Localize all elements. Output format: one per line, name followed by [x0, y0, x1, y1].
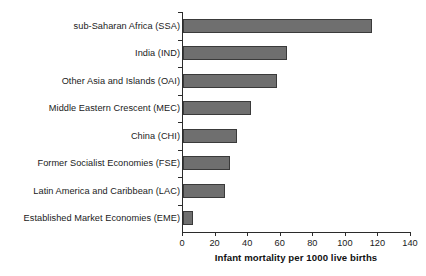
y-axis-tick — [178, 12, 182, 13]
x-tick-label-40: 40 — [242, 238, 252, 248]
x-tick-mark — [247, 232, 248, 236]
x-tick-label-120: 120 — [370, 238, 385, 248]
y-axis-tick — [178, 177, 182, 178]
bar-ssa — [183, 19, 372, 33]
bar-chart: sub-Saharan Africa (SSA) India (IND) Oth… — [0, 0, 426, 276]
y-axis-tick — [178, 67, 182, 68]
chart-rows: sub-Saharan Africa (SSA) India (IND) Oth… — [0, 12, 426, 232]
x-tick-mark — [312, 232, 313, 236]
category-label-ind: India (IND) — [135, 48, 180, 58]
x-tick-mark — [377, 232, 378, 236]
bar-row: Other Asia and Islands (OAI) — [0, 67, 426, 95]
x-tick-mark — [345, 232, 346, 236]
bar-row: Established Market Economies (EME) — [0, 205, 426, 233]
category-label-eme: Established Market Economies (EME) — [24, 213, 180, 223]
bar-chi — [183, 129, 237, 143]
x-tick-label-20: 20 — [209, 238, 219, 248]
x-axis-ticks: 0 20 40 60 80 100 120 140 — [0, 232, 426, 252]
bar-lac — [183, 184, 225, 198]
bar-eme — [183, 211, 193, 225]
category-label-mec: Middle Eastern Crescent (MEC) — [49, 103, 180, 113]
y-axis-tick — [178, 122, 182, 123]
x-tick-label-60: 60 — [275, 238, 285, 248]
bar-row: Latin America and Caribbean (LAC) — [0, 177, 426, 205]
x-tick-mark — [410, 232, 411, 236]
category-label-chi: China (CHI) — [131, 131, 180, 141]
x-tick-mark — [280, 232, 281, 236]
category-label-fse: Former Socialist Economies (FSE) — [37, 158, 180, 168]
y-axis-tick — [178, 205, 182, 206]
y-axis-tick — [178, 150, 182, 151]
bar-row: Former Socialist Economies (FSE) — [0, 150, 426, 178]
bar-ind — [183, 46, 287, 60]
x-axis-title: Infant mortality per 1000 live births — [182, 252, 410, 263]
y-axis-tick — [178, 95, 182, 96]
bar-row: sub-Saharan Africa (SSA) — [0, 12, 426, 40]
bar-fse — [183, 156, 230, 170]
bar-oai — [183, 74, 277, 88]
bar-row: China (CHI) — [0, 122, 426, 150]
x-tick-label-0: 0 — [179, 238, 184, 248]
category-label-lac: Latin America and Caribbean (LAC) — [33, 186, 180, 196]
x-tick-mark — [215, 232, 216, 236]
y-axis-tick — [178, 40, 182, 41]
bar-row: Middle Eastern Crescent (MEC) — [0, 95, 426, 123]
bar-row: India (IND) — [0, 40, 426, 68]
x-tick-label-100: 100 — [337, 238, 352, 248]
chart-screenshot: sub-Saharan Africa (SSA) India (IND) Oth… — [0, 0, 426, 276]
bar-mec — [183, 101, 251, 115]
x-tick-label-140: 140 — [402, 238, 417, 248]
x-tick-label-80: 80 — [307, 238, 317, 248]
x-tick-mark — [182, 232, 183, 236]
category-label-oai: Other Asia and Islands (OAI) — [62, 76, 180, 86]
category-label-ssa: sub-Saharan Africa (SSA) — [74, 21, 180, 31]
